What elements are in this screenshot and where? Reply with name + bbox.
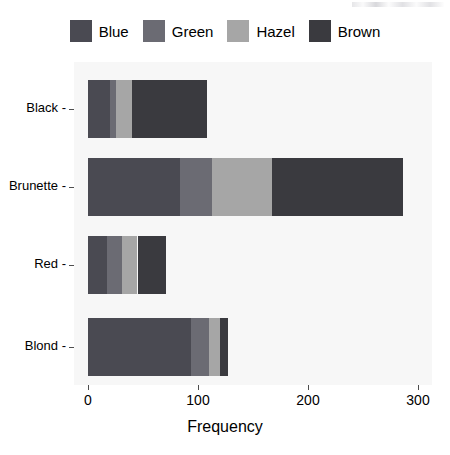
bar-segment-black-hazel[interactable] [116,80,133,138]
legend-label: Brown [338,23,381,40]
x-tick-mark [418,385,419,390]
bar-segment-blond-brown[interactable] [220,318,228,376]
legend-swatch-hazel-icon [227,20,249,42]
bar-segment-red-brown[interactable] [138,236,167,294]
bar-red[interactable] [88,236,166,294]
y-tick-label-blond: Blond - [0,338,66,353]
bar-segment-red-blue[interactable] [88,236,107,294]
y-tick-mark [69,187,74,188]
y-tick-mark [69,265,74,266]
legend-item-green[interactable]: Green [143,20,214,42]
y-tick-label-brunette: Brunette - [0,178,66,193]
x-axis-title: Frequency [0,418,450,436]
legend-item-hazel[interactable]: Hazel [227,20,294,42]
chart-container: BlueGreenHazelBrown Black -Brunette -Red… [0,0,450,455]
bar-segment-black-blue[interactable] [88,80,110,138]
bar-segment-blond-green[interactable] [191,318,209,376]
y-tick-mark [69,109,74,110]
legend-label: Green [172,23,214,40]
legend-swatch-blue-icon [70,20,92,42]
bar-black[interactable] [88,80,207,138]
bar-segment-red-green[interactable] [107,236,122,294]
legend-swatch-green-icon [143,20,165,42]
bar-segment-brunette-hazel[interactable] [212,158,271,216]
x-tick-mark [308,385,309,390]
legend-label: Hazel [256,23,294,40]
y-tick-label-red: Red - [0,256,66,271]
bar-segment-red-hazel[interactable] [122,236,137,294]
legend-swatch-brown-icon [309,20,331,42]
legend-item-blue[interactable]: Blue [70,20,129,42]
bar-segment-black-brown[interactable] [132,80,207,138]
bar-segment-blond-hazel[interactable] [209,318,220,376]
bar-segment-brunette-brown[interactable] [272,158,403,216]
y-tick-mark [69,347,74,348]
bar-brunette[interactable] [88,158,403,216]
chart-legend: BlueGreenHazelBrown [0,20,450,42]
bar-segment-blond-blue[interactable] [88,318,191,376]
x-tick-mark [198,385,199,390]
bar-blond[interactable] [88,318,228,376]
x-tick-label-100: 100 [178,392,218,408]
legend-item-brown[interactable]: Brown [309,20,381,42]
bar-segment-brunette-blue[interactable] [88,158,180,216]
x-tick-label-0: 0 [68,392,108,408]
x-tick-label-300: 300 [398,392,438,408]
top-edge-artifact [352,2,444,7]
x-tick-label-200: 200 [288,392,328,408]
bar-segment-brunette-green[interactable] [180,158,212,216]
x-tick-mark [88,385,89,390]
legend-label: Blue [99,23,129,40]
y-tick-label-black: Black - [0,100,66,115]
